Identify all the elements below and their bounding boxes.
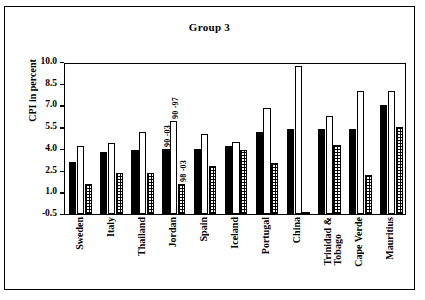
y-tick-label: 2.5 <box>45 165 57 175</box>
x-axis-label: Thailand <box>137 217 147 256</box>
bar[interactable] <box>349 129 356 214</box>
y-tick-label: 5.5 <box>45 121 57 131</box>
chart-frame: Group 3 CPI in percent 10.08.57.05.54.02… <box>4 6 415 290</box>
bar[interactable] <box>139 132 146 215</box>
bar[interactable] <box>100 152 107 214</box>
bar-group <box>69 64 92 214</box>
x-axis-label-line: China <box>292 217 302 243</box>
bar[interactable] <box>388 91 395 214</box>
bar-group <box>256 64 279 214</box>
bar-annotation: 90 -97 <box>171 97 180 119</box>
bar[interactable] <box>256 132 263 215</box>
bar[interactable] <box>333 145 340 214</box>
bar-group <box>194 64 217 214</box>
bar[interactable] <box>287 129 294 214</box>
bar[interactable] <box>162 149 169 214</box>
x-axis-label-line: Tobago <box>333 217 343 265</box>
bar-group: 90 -0390 -9798 -03 <box>162 64 185 214</box>
y-tick-label: 10.0 <box>40 56 57 66</box>
plot-area: 90 -0390 -9798 -03 <box>64 63 406 215</box>
bar[interactable] <box>380 105 387 214</box>
x-axis-label: Portugal <box>261 217 271 254</box>
bar[interactable] <box>85 184 92 214</box>
x-axis-label: Trinidad &Tobago <box>323 217 343 265</box>
bar[interactable] <box>225 146 232 214</box>
x-axis-label: Cape Verde <box>354 217 364 267</box>
chart-title: Group 3 <box>5 21 414 33</box>
x-axis-label-line: Iceland <box>230 217 240 249</box>
bar[interactable] <box>326 116 333 214</box>
bar-annotation: 98 -03 <box>179 160 188 182</box>
bar[interactable] <box>131 150 138 214</box>
bar[interactable] <box>147 173 154 214</box>
bar-group <box>287 64 310 214</box>
bar-group <box>349 64 372 214</box>
bar[interactable] <box>357 91 364 214</box>
x-axis-label-line: Jordan <box>168 217 178 248</box>
x-axis-label: Jordan <box>168 217 178 248</box>
bar[interactable] <box>396 127 403 214</box>
bar[interactable] <box>178 184 185 214</box>
x-axis-labels: SwedenItalyThailandJordanSpainIcelandPor… <box>64 217 406 300</box>
x-axis-label-line: Italy <box>106 217 116 237</box>
x-axis-label-line: Cape Verde <box>354 217 364 267</box>
bar[interactable] <box>170 121 177 214</box>
bar-group <box>131 64 154 214</box>
bar-series-container: 90 -0390 -9798 -03 <box>65 64 405 214</box>
x-axis-label: Mauritius <box>385 217 395 260</box>
x-axis-label-line: Spain <box>199 217 209 241</box>
x-axis-label: Sweden <box>75 217 85 250</box>
bar[interactable] <box>232 142 239 214</box>
bar[interactable] <box>209 166 216 214</box>
y-axis: 10.08.57.05.54.02.51.0-0.5 <box>5 63 64 215</box>
y-tick-label: 1.0 <box>45 186 57 196</box>
bar[interactable] <box>69 162 76 214</box>
bar[interactable] <box>271 163 278 214</box>
bar[interactable] <box>108 143 115 214</box>
bar[interactable] <box>201 134 208 214</box>
bar[interactable] <box>295 66 302 214</box>
x-axis-label-line: Thailand <box>137 217 147 256</box>
bar[interactable] <box>77 146 84 214</box>
x-axis-label-line: Sweden <box>75 217 85 250</box>
bar[interactable] <box>194 149 201 214</box>
bar[interactable] <box>240 150 247 214</box>
y-tick-label: 4.0 <box>45 143 57 153</box>
bar-group <box>225 64 248 214</box>
x-axis-label: China <box>292 217 302 243</box>
bar[interactable] <box>365 175 372 214</box>
bar[interactable] <box>116 173 123 214</box>
x-axis-label: Spain <box>199 217 209 241</box>
y-tick-label: 7.0 <box>45 99 57 109</box>
bar[interactable] <box>318 129 325 214</box>
x-axis-label-line: Portugal <box>261 217 271 254</box>
bar-group <box>100 64 123 214</box>
y-tick-label: -0.5 <box>42 208 57 218</box>
x-axis-label: Iceland <box>230 217 240 249</box>
y-tick-label: 8.5 <box>45 78 57 88</box>
bar-group <box>380 64 403 214</box>
bar[interactable] <box>302 212 309 215</box>
bar[interactable] <box>263 108 270 214</box>
bar-group <box>318 64 341 214</box>
x-axis-label-line: Mauritius <box>385 217 395 260</box>
x-axis-label: Italy <box>106 217 116 237</box>
